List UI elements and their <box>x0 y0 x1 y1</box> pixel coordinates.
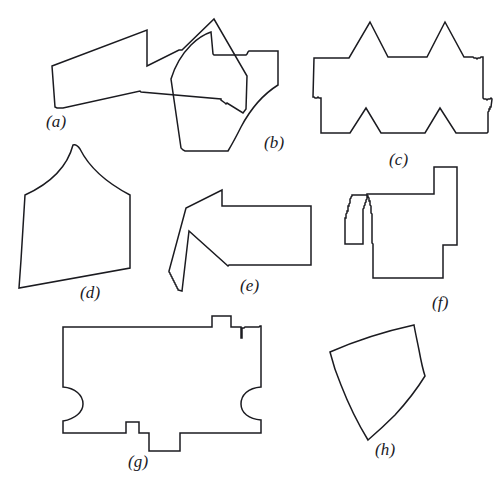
shape-h-outline <box>330 325 425 440</box>
shape-a-outline <box>52 19 247 113</box>
shape-d-outline <box>19 145 130 288</box>
caption-g: (g) <box>128 452 148 472</box>
shape-f-outline <box>345 167 457 278</box>
shape-c-outline <box>313 22 492 133</box>
caption-f: (f) <box>432 293 449 313</box>
caption-a: (a) <box>46 112 66 132</box>
shape-b-outline <box>171 32 278 151</box>
caption-e: (e) <box>240 276 259 296</box>
figure-container: (a) (b) (c) (d) (e) (f) (g) (h) <box>0 0 501 491</box>
caption-d: (d) <box>80 283 100 303</box>
caption-h: (h) <box>375 440 395 460</box>
caption-c: (c) <box>389 150 408 170</box>
caption-b: (b) <box>264 133 284 153</box>
shape-g-outline <box>63 316 261 451</box>
shapes-canvas <box>0 0 501 491</box>
